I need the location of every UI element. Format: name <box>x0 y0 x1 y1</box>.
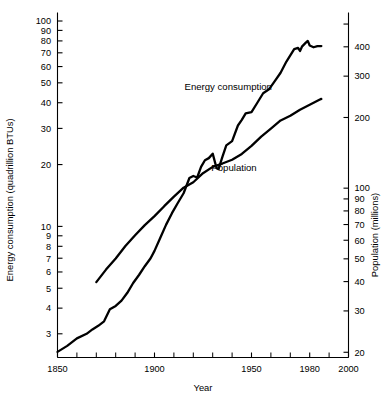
y-tick-label-left: 5 <box>46 284 51 294</box>
y-tick-label-left: 4 <box>46 303 51 313</box>
series-line-population <box>96 99 321 282</box>
y-tick-label-left: 3 <box>46 329 51 339</box>
series-annotations: Energy consumptionPopulation <box>184 81 271 173</box>
x-axis: 18501900195019802000 <box>47 353 358 374</box>
y-axis-right-title: Population (millions) <box>369 193 380 277</box>
y-tick-label-right: 30 <box>355 306 365 316</box>
y-tick-label-left: 80 <box>41 36 51 46</box>
y-tick-label-left: 30 <box>41 124 51 134</box>
x-tick-label: 1850 <box>47 364 67 374</box>
y-tick-label-right: 400 <box>355 42 370 52</box>
y-tick-label-left: 60 <box>41 62 51 72</box>
y-tick-label-left: 10 <box>41 222 51 232</box>
y-tick-label-right: 100 <box>355 183 370 193</box>
energy-population-chart: 18501900195019802000 3456789102030405060… <box>0 0 391 403</box>
y-tick-label-left: 40 <box>41 98 51 108</box>
y-tick-label-right: 70 <box>355 220 365 230</box>
y-tick-label-right: 40 <box>355 277 365 287</box>
x-tick-label: 1980 <box>299 364 319 374</box>
y-tick-label-right: 300 <box>355 71 370 81</box>
y-tick-label-right: 80 <box>355 206 365 216</box>
y-tick-label-right: 60 <box>355 236 365 246</box>
y-tick-label-right: 90 <box>355 194 365 204</box>
energy-consumption-label: Energy consumption <box>184 81 271 92</box>
y-tick-label-left: 70 <box>41 48 51 58</box>
y-axis-left-title: Energy consumption (quadrillion BTUs) <box>4 118 15 281</box>
y-tick-label-left: 100 <box>36 16 51 26</box>
y-tick-label-left: 50 <box>41 78 51 88</box>
y-tick-label-left: 9 <box>46 231 51 241</box>
chart-canvas: 18501900195019802000 3456789102030405060… <box>0 0 391 403</box>
y-tick-label-right: 200 <box>355 113 370 123</box>
y-tick-label-left: 90 <box>41 26 51 36</box>
x-axis-title: Year <box>194 382 213 393</box>
population-label: Population <box>211 162 256 173</box>
x-tick-label: 1900 <box>144 364 164 374</box>
y-tick-label-right: 50 <box>355 254 365 264</box>
y-tick-label-left: 7 <box>46 254 51 264</box>
y-axis-left: 3456789102030405060708090100 <box>36 13 63 358</box>
y-axis-right: 2030405060708090100200300400 <box>344 13 370 358</box>
x-tick-label: 2000 <box>338 364 358 374</box>
y-tick-label-left: 6 <box>46 267 51 277</box>
y-tick-label-left: 20 <box>41 160 51 170</box>
y-tick-label-left: 8 <box>46 242 51 252</box>
x-tick-label: 1950 <box>241 364 261 374</box>
y-tick-label-right: 20 <box>355 348 365 358</box>
